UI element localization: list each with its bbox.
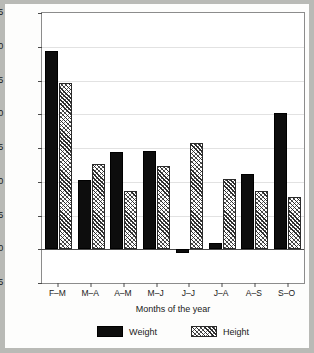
bar-weight-2 xyxy=(110,152,123,249)
x-tick-label: M–J xyxy=(148,288,164,298)
y-tick-mark xyxy=(38,182,42,183)
gridline xyxy=(42,114,304,115)
bar-weight-0 xyxy=(45,51,58,249)
bar-weight-4 xyxy=(176,249,189,252)
y-tick-mark xyxy=(38,148,42,149)
y-tick-mark xyxy=(38,47,42,48)
gridline xyxy=(42,81,304,82)
y-tick-label: 30 xyxy=(0,41,3,51)
bar-height-1 xyxy=(92,164,105,249)
y-tick-mark xyxy=(38,283,42,284)
x-tick-mark xyxy=(91,283,92,287)
x-tick-mark xyxy=(222,283,223,287)
bar-weight-6 xyxy=(241,174,254,250)
x-tick-mark xyxy=(189,283,190,287)
legend-label-height: Height xyxy=(223,327,249,337)
x-tick-mark xyxy=(58,283,59,287)
legend-item-weight: Weight xyxy=(97,326,157,337)
x-tick-label: J–A xyxy=(214,288,229,298)
zero-line xyxy=(42,249,304,250)
chart-figure: Per cent of total Months of the year Wei… xyxy=(5,4,309,348)
y-tick-mark xyxy=(38,114,42,115)
y-tick-label: 15 xyxy=(0,142,3,152)
y-tick-label: 20 xyxy=(0,108,3,118)
y-tick-mark xyxy=(38,13,42,14)
y-tick-label: 5 xyxy=(0,210,3,220)
legend-label-weight: Weight xyxy=(129,327,157,337)
bar-height-0 xyxy=(59,83,72,249)
x-tick-mark xyxy=(254,283,255,287)
y-tick-mark xyxy=(38,216,42,217)
x-tick-mark xyxy=(156,283,157,287)
legend-swatch-height xyxy=(191,326,217,337)
x-tick-label: F–M xyxy=(49,288,66,298)
y-tick-mark xyxy=(38,81,42,82)
bar-height-3 xyxy=(157,166,170,249)
x-tick-label: A–M xyxy=(114,288,131,298)
y-tick-label: 35 xyxy=(0,7,3,17)
bar-weight-7 xyxy=(274,113,287,249)
bar-height-6 xyxy=(255,191,268,249)
gridline xyxy=(42,148,304,149)
legend-item-height: Height xyxy=(191,326,249,337)
gridline xyxy=(42,47,304,48)
bar-height-2 xyxy=(124,191,137,249)
x-tick-label: M–A xyxy=(81,288,98,298)
x-tick-label: A–S xyxy=(246,288,262,298)
x-tick-label: J–J xyxy=(182,288,195,298)
x-tick-label: S–O xyxy=(278,288,295,298)
bar-weight-3 xyxy=(143,151,156,250)
y-tick-label: 25 xyxy=(0,75,3,85)
y-tick-mark xyxy=(38,249,42,250)
x-tick-mark xyxy=(123,283,124,287)
x-tick-mark xyxy=(287,283,288,287)
plot-area xyxy=(41,12,305,284)
y-tick-label: -5 xyxy=(0,277,3,287)
y-tick-label: 0 xyxy=(0,243,3,253)
legend-swatch-weight xyxy=(97,326,123,337)
bar-weight-5 xyxy=(209,243,222,249)
bar-height-5 xyxy=(223,179,236,249)
chart-legend: Weight Height xyxy=(41,326,305,337)
y-tick-label: 10 xyxy=(0,176,3,186)
x-axis-label: Months of the year xyxy=(41,304,305,314)
bar-height-7 xyxy=(288,197,301,249)
bar-weight-1 xyxy=(78,180,91,249)
bar-height-4 xyxy=(190,143,203,249)
